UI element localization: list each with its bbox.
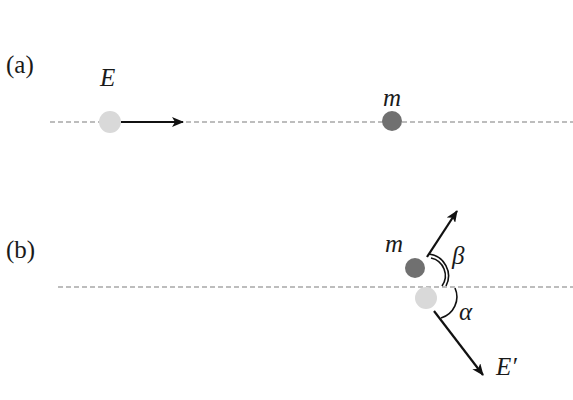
alpha-angle-label: α	[459, 298, 473, 325]
beta-angle-label: β	[451, 242, 465, 269]
panel-b-label: (b)	[6, 236, 35, 264]
alpha-angle-arc	[441, 288, 457, 318]
target-particle	[382, 111, 402, 131]
collision-diagram: (a) E m (b) m β α E′	[0, 0, 573, 400]
recoil-particle	[405, 258, 425, 278]
panel-b: (b) m β α E′	[6, 211, 573, 380]
scattered-particle	[415, 287, 437, 309]
incoming-energy-label: E	[99, 64, 115, 91]
recoil-mass-label: m	[385, 230, 403, 257]
incoming-particle	[99, 111, 121, 133]
panel-a-label: (a)	[6, 51, 34, 79]
panel-a: (a) E m	[6, 51, 573, 133]
scattered-energy-label: E′	[495, 353, 517, 380]
target-mass-label: m	[383, 84, 401, 111]
